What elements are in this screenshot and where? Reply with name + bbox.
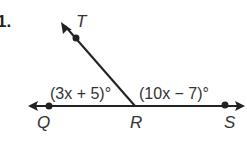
label-q: Q bbox=[37, 113, 50, 133]
angle-trs-label: (10x − 7)° bbox=[139, 85, 209, 103]
point-s bbox=[222, 102, 229, 109]
label-t: T bbox=[76, 12, 86, 32]
label-r: R bbox=[130, 113, 142, 133]
label-s: S bbox=[224, 113, 235, 133]
geometry-diagram: 1. T Q R S (3x + 5)° (10x − 7)° bbox=[0, 0, 247, 141]
point-t bbox=[73, 35, 80, 42]
point-q bbox=[46, 103, 53, 110]
angle-qrt-label: (3x + 5)° bbox=[50, 85, 111, 103]
